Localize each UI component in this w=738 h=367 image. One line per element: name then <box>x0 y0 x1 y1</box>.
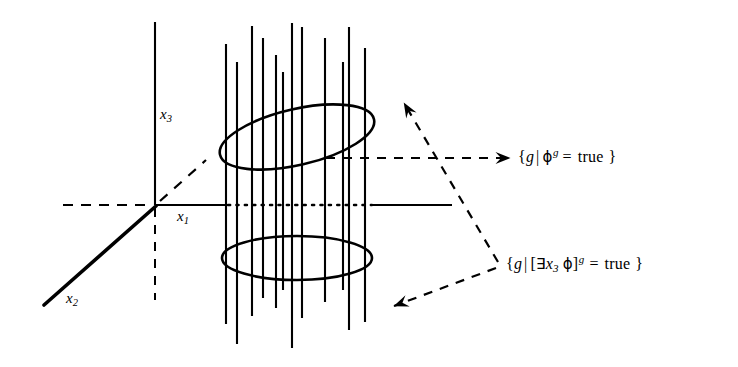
axis-label-x3: x3 <box>160 106 172 124</box>
axis-label-x2-base: x <box>66 290 73 306</box>
equals-sign: = <box>563 148 572 165</box>
such-that-bar: | <box>536 148 539 165</box>
bracket-superscript-g: g <box>579 253 585 265</box>
axis-label-x2-subscript: 2 <box>73 297 78 308</box>
phi-superscript-g: g <box>553 146 559 158</box>
cylinder-top-ellipse <box>214 92 381 182</box>
axis-label-x1-subscript: 1 <box>184 215 189 226</box>
bracket-close: ] <box>573 255 579 272</box>
axis-label-x1-base: x <box>177 208 184 224</box>
brace-open: { <box>506 255 514 272</box>
phi-true-set-label: {g|ϕg=true} <box>518 146 616 166</box>
such-that-bar: | <box>524 255 527 272</box>
brace-close: } <box>635 255 643 272</box>
leader-exists-arrow-up <box>404 103 498 262</box>
x2-axis <box>44 160 206 305</box>
exists-quantifier-icon: ∃ <box>536 255 546 273</box>
equals-sign: = <box>589 255 598 272</box>
variable-x: x <box>546 255 553 272</box>
brace-close: } <box>609 148 617 165</box>
diagram-canvas <box>0 0 738 367</box>
assignment-g: g <box>514 255 522 272</box>
axis-label-x3-subscript: 3 <box>167 113 172 124</box>
figure-root: x3 x1 x2 {g|ϕg=true} {g|[∃x3ϕ]g=true} <box>0 0 738 367</box>
variable-x-subscript: 3 <box>553 262 559 274</box>
brace-open: { <box>518 148 526 165</box>
cylinder-fiber-lines <box>226 23 365 348</box>
assignment-g: g <box>526 148 534 165</box>
true-value: true <box>605 255 631 272</box>
axis-label-x2: x2 <box>66 290 78 308</box>
phi-symbol: ϕ <box>563 255 573 273</box>
leader-exists-arrow-down <box>394 268 496 306</box>
true-value: true <box>578 148 604 165</box>
phi-symbol: ϕ <box>543 148 553 166</box>
exists-x3-phi-true-set-label: {g|[∃x3ϕ]g=true} <box>506 253 643 274</box>
axis-label-x3-base: x <box>160 106 167 122</box>
axis-label-x1: x1 <box>177 208 189 226</box>
